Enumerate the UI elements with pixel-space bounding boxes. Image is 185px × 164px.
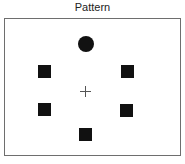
marker-lower-right-square xyxy=(120,104,133,117)
fixation-cross-icon xyxy=(80,86,91,97)
diagram-title: Pattern xyxy=(0,1,185,14)
marker-lower-left-square xyxy=(38,103,51,116)
marker-upper-left-square xyxy=(38,65,51,78)
marker-upper-right-square xyxy=(121,65,134,78)
marker-bottom-square xyxy=(79,128,92,141)
marker-top-circle xyxy=(78,36,94,52)
